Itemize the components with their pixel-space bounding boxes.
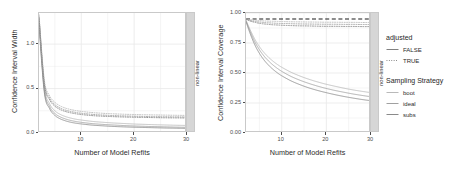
left-panel-plot-area	[38, 12, 186, 132]
left-panel-x-axis-title: Number of Model Refits	[38, 148, 186, 157]
legend-line-swatch-icon	[386, 55, 399, 66]
x-tick-mark	[186, 132, 187, 135]
right-panel-x-axis-title: Number of Model Refits	[245, 148, 370, 157]
series-line	[39, 17, 186, 125]
left-panel-facet-strip-label: non-linear	[194, 60, 200, 86]
legend-item[interactable]: ideal	[386, 98, 443, 109]
legend-item[interactable]: subs	[386, 109, 443, 120]
left-panel-lines	[39, 13, 186, 132]
right-panel-plot-area	[245, 12, 370, 132]
legend-item[interactable]: boot	[386, 87, 443, 98]
series-line	[246, 19, 370, 26]
y-tick-mark	[243, 132, 246, 133]
y-tick-label: 0.0	[16, 129, 34, 135]
x-tick-mark	[80, 132, 81, 135]
x-tick-mark	[281, 132, 282, 135]
y-tick-label: 1.00	[223, 9, 241, 15]
x-tick-label: 10	[271, 136, 291, 142]
x-tick-mark	[325, 132, 326, 135]
right-panel-lines	[246, 13, 370, 132]
y-tick-label: 1.0	[16, 40, 34, 46]
series-line	[246, 21, 370, 97]
legend-item-label: TRUE	[403, 58, 419, 64]
x-tick-label: 20	[123, 136, 143, 142]
legend-item-label: boot	[403, 90, 415, 96]
series-line	[39, 17, 186, 117]
series-line	[39, 18, 186, 118]
series-line	[246, 22, 370, 101]
y-tick-label: 0.25	[223, 99, 241, 105]
legend-line-swatch-icon	[386, 87, 399, 98]
legend-item-label: FALSE	[403, 47, 422, 53]
y-tick-label: 0.00	[223, 129, 241, 135]
x-tick-label: 10	[70, 136, 90, 142]
legend-item-label: ideal	[403, 101, 416, 107]
legend-line-swatch-icon	[386, 109, 399, 120]
y-tick-label: 0.50	[223, 69, 241, 75]
legend-group-spacer	[386, 66, 443, 77]
x-tick-mark	[133, 132, 134, 135]
legend-title: Sampling Strategy	[386, 77, 443, 84]
x-tick-label: 30	[176, 136, 196, 142]
x-tick-label: 20	[315, 136, 335, 142]
legend: adjustedFALSETRUESampling Strategybootid…	[386, 34, 443, 120]
legend-title: adjusted	[386, 34, 443, 41]
x-tick-label: 30	[360, 136, 380, 142]
x-tick-mark	[370, 132, 371, 135]
legend-item[interactable]: TRUE	[386, 55, 443, 66]
legend-item[interactable]: FALSE	[386, 44, 443, 55]
series-line	[39, 25, 186, 129]
y-tick-label: 0.5	[16, 84, 34, 90]
right-panel-facet-strip-label: non-linear	[378, 60, 384, 86]
legend-item-label: subs	[403, 112, 416, 118]
y-tick-mark	[36, 132, 39, 133]
series-line	[39, 15, 186, 116]
figure-root: Confidence Interval Width 0.00.51.0 non-…	[0, 0, 473, 180]
series-line	[39, 21, 186, 127]
legend-line-swatch-icon	[386, 44, 399, 55]
legend-line-swatch-icon	[386, 98, 399, 109]
y-tick-label: 0.75	[223, 39, 241, 45]
